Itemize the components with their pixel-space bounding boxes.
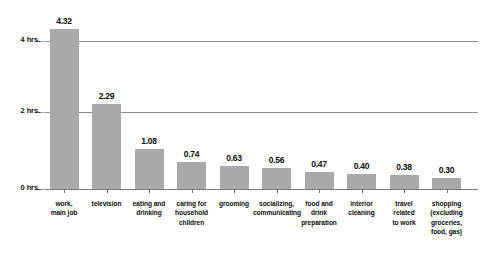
x-axis-category-label: eating anddrinking — [126, 199, 173, 218]
x-axis-category-label: television — [83, 199, 130, 208]
x-axis-category-label: shopping(excludinggroceries,food, gas) — [423, 199, 470, 236]
category-label-line: cleaning — [338, 208, 385, 217]
bar[interactable] — [50, 29, 79, 189]
bar-value-label: 4.32 — [50, 17, 79, 26]
category-label-line: household — [168, 208, 215, 217]
x-axis-category-label: interiorcleaning — [338, 199, 385, 218]
category-label-line: grooming — [211, 199, 258, 208]
category-label-line: interior — [338, 199, 385, 208]
bar[interactable] — [347, 174, 376, 189]
category-label-line: work, — [41, 199, 88, 208]
bar-group: 0.40interiorcleaning — [347, 0, 376, 256]
x-axis-tick — [319, 190, 320, 193]
category-label-line: drink — [296, 208, 343, 217]
bar-group: 0.56socializing,communicating — [262, 0, 291, 256]
bar[interactable] — [432, 178, 461, 189]
bar-value-label: 2.29 — [92, 92, 121, 101]
category-label-line: caring for — [168, 199, 215, 208]
bar-group: 4.32work,main job — [50, 0, 79, 256]
category-label-line: shopping — [423, 199, 470, 208]
bar[interactable] — [135, 149, 164, 189]
x-axis-tick — [234, 190, 235, 193]
category-label-line: (excluding — [423, 208, 470, 217]
bar-value-label: 0.63 — [220, 154, 249, 163]
x-axis-category-label: caring forhouseholdchildren — [168, 199, 215, 227]
bar-value-label: 0.30 — [432, 166, 461, 175]
category-label-line: to work — [381, 218, 428, 227]
bar[interactable] — [305, 172, 334, 189]
bars-container: 4.32work,main job2.29television1.08eatin… — [0, 0, 498, 256]
category-label-line: television — [83, 199, 130, 208]
x-axis-category-label: food anddrinkpreparation — [296, 199, 343, 227]
x-axis-category-label: grooming — [211, 199, 258, 208]
category-label-line: drinking — [126, 208, 173, 217]
x-axis-tick — [362, 190, 363, 193]
x-axis-tick — [404, 190, 405, 193]
x-axis-category-label: socializing,communicating — [253, 199, 300, 218]
x-axis-tick — [192, 190, 193, 193]
bar-value-label: 0.74 — [177, 150, 206, 159]
bar[interactable] — [220, 166, 249, 189]
x-axis-category-label: work,main job — [41, 199, 88, 218]
bar-value-label: 0.40 — [347, 162, 376, 171]
bar-group: 2.29television — [92, 0, 121, 256]
bar-value-label: 1.08 — [135, 137, 164, 146]
category-label-line: eating and — [126, 199, 173, 208]
bar-group: 0.30shopping(excludinggroceries,food, ga… — [432, 0, 461, 256]
bar-group: 0.63grooming — [220, 0, 249, 256]
bar-value-label: 0.47 — [305, 160, 334, 169]
bar-group: 1.08eating anddrinking — [135, 0, 164, 256]
category-label-line: preparation — [296, 218, 343, 227]
category-label-line: food and — [296, 199, 343, 208]
x-axis-tick — [277, 190, 278, 193]
category-label-line: groceries, — [423, 218, 470, 227]
category-label-line: socializing, — [253, 199, 300, 208]
category-label-line: travel — [381, 199, 428, 208]
bar[interactable] — [177, 162, 206, 189]
bar-group: 0.38travelrelatedto work — [390, 0, 419, 256]
category-label-line: related — [381, 208, 428, 217]
x-axis-tick — [107, 190, 108, 193]
x-axis-tick — [64, 190, 65, 193]
bar[interactable] — [92, 104, 121, 189]
category-label-line: food, gas) — [423, 227, 470, 236]
x-axis-tick — [447, 190, 448, 193]
x-axis-category-label: travelrelatedto work — [381, 199, 428, 227]
bar-group: 0.74caring forhouseholdchildren — [177, 0, 206, 256]
bar[interactable] — [390, 175, 419, 189]
x-axis-tick — [149, 190, 150, 193]
bar[interactable] — [262, 168, 291, 189]
category-label-line: main job — [41, 208, 88, 217]
bar-value-label: 0.56 — [262, 156, 291, 165]
bar-chart: 4 hrs. 2 hrs. 0 hrs. 4.32work,main job2.… — [0, 0, 498, 256]
bar-value-label: 0.38 — [390, 163, 419, 172]
category-label-line: children — [168, 218, 215, 227]
bar-group: 0.47food anddrinkpreparation — [305, 0, 334, 256]
category-label-line: communicating — [253, 208, 300, 217]
